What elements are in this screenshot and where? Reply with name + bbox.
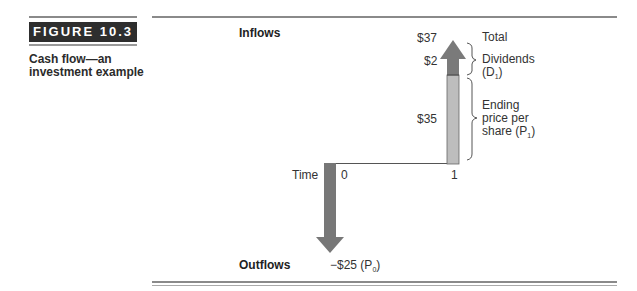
inflows-label: Inflows (239, 26, 280, 40)
up-arrow-head-icon (440, 40, 466, 59)
dividends-label: Dividends (D1) (482, 53, 535, 83)
time-point-0: 0 (341, 168, 348, 182)
ending-price-value: $35 (417, 112, 437, 126)
down-arrow-head-icon (316, 237, 344, 253)
outflow-value: −$25 (P0) (330, 258, 380, 273)
cash-flow-diagram (0, 0, 637, 291)
total-label: Total (482, 31, 507, 44)
time-point-1: 1 (451, 168, 458, 182)
outflow-arrow-shaft (324, 163, 336, 238)
ending-price-label: Ending price per share (P1) (482, 99, 535, 142)
ending-price-brace-icon (467, 78, 477, 160)
dividends-brace-icon (467, 43, 476, 75)
dividends-value: $2 (424, 54, 437, 68)
outflows-label: Outflows (239, 258, 290, 272)
dividends-segment (447, 58, 459, 75)
ending-price-segment (447, 75, 459, 164)
total-value: $37 (417, 31, 437, 45)
time-label: Time (292, 168, 318, 182)
